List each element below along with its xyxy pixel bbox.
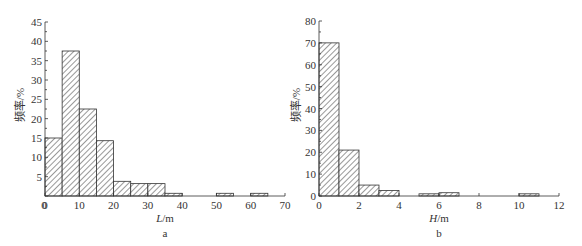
histogram-figure: 010203040506070510152025303540450L/m频率/%… [0,0,582,246]
y-tick-label: 40 [31,35,43,47]
histogram-bar [319,43,339,196]
x-tick-label: 4 [396,199,402,211]
y-tick-label: 25 [31,93,43,105]
histogram-bar [45,138,62,196]
histogram-bar [62,51,79,196]
panel-label: a [163,227,168,239]
y-tick-label: 5 [37,171,43,183]
y-tick-label: 50 [305,81,317,93]
histogram-a: 010203040506070510152025303540450L/m频率/%… [13,16,291,239]
y-tick-label: 35 [31,55,43,67]
y-axis-label: 频率/% [13,88,26,122]
x-tick-label: 50 [211,199,223,211]
x-tick-label: 0 [316,199,322,211]
x-tick-label: 8 [476,199,482,211]
histogram-bar [165,193,182,196]
histogram-bar [251,193,268,196]
y-tick-label: 20 [31,113,43,125]
histogram-bar [359,185,379,196]
x-tick-label: 40 [177,199,189,211]
y-tick-label: 20 [305,146,317,158]
y-axis-label: 频率/% [289,88,302,122]
x-axis-label: L/m [155,212,174,224]
x-tick-label: 10 [514,199,526,211]
y-tick-label: 10 [305,168,317,180]
x-tick-label: 10 [74,199,86,211]
histogram-bar [114,181,131,196]
y-tick-label: 60 [305,59,317,71]
y-tick-label: 30 [305,124,317,136]
y-tick-label: 0 [311,190,317,202]
x-tick-label: 60 [245,199,257,211]
histogram-b: 02468101201020304050607080H/m频率/%b [289,15,565,239]
histogram-bar [216,193,233,196]
histogram-bar [439,193,459,196]
y-tick-label: 10 [31,151,43,163]
x-tick-label: 2 [356,199,362,211]
x-tick-label: 12 [554,199,565,211]
histogram-bar [339,150,359,196]
histogram-bar [131,184,148,196]
y-tick-label: 45 [31,16,43,28]
histogram-bar [148,184,165,196]
y-tick-label: 70 [305,37,317,49]
x-tick-label: 70 [280,199,292,211]
y-tick-label: 30 [31,74,43,86]
x-tick-label: 0 [41,199,47,211]
x-tick-label: 20 [108,199,120,211]
x-axis-label: H/m [428,212,449,224]
y-tick-label: 80 [305,15,317,27]
histogram-bar [79,109,96,196]
y-tick-label: 15 [31,132,43,144]
panel-label: b [436,227,442,239]
x-tick-label: 30 [142,199,154,211]
y-tick-label: 40 [305,103,317,115]
x-tick-label: 6 [436,199,442,211]
histogram-bar [379,191,399,196]
histogram-bar [96,141,113,196]
